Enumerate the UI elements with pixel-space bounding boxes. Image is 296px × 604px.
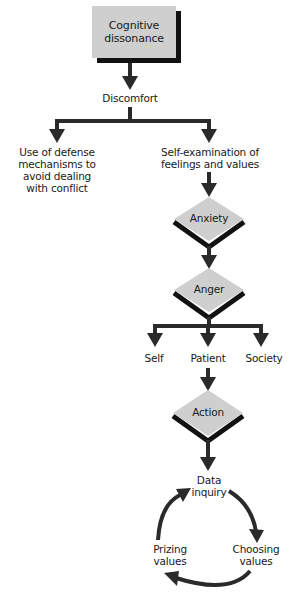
cycle-arrows [158, 488, 264, 586]
arrow-to-anger [201, 246, 217, 269]
defense-line-1: Use of defense [18, 146, 96, 158]
self-examination-label: Self-examination of feelings and values [161, 146, 259, 170]
cognitive-dissonance-label: Cognitive dissonance [104, 19, 164, 45]
data-inquiry-label: Data inquiry [192, 474, 227, 498]
defense-line-2: mechanisms to [18, 158, 96, 170]
arrow-to-data-inquiry [200, 440, 216, 471]
target-patient-label: Patient [190, 352, 225, 364]
defense-line-3: avoid dealing [18, 170, 96, 182]
arrow-to-anxiety [201, 172, 217, 197]
prizing-values-line-2: values [153, 555, 187, 567]
anger-split-connector [147, 317, 269, 347]
target-self-label: Self [145, 352, 164, 364]
choosing-values-line-2: values [233, 555, 280, 567]
data-inquiry-line-1: Data [192, 474, 227, 486]
prizing-values-line-1: Prizing [153, 543, 187, 555]
prizing-values-label: Prizing values [153, 543, 187, 567]
arrow-to-action [200, 368, 216, 391]
choosing-values-line-1: Choosing [233, 543, 280, 555]
cognitive-dissonance-line-2: dissonance [104, 32, 164, 45]
data-inquiry-line-2: inquiry [192, 486, 227, 498]
discomfort-split-connector [49, 107, 217, 143]
flowchart-canvas [0, 0, 296, 604]
anger-label: Anger [194, 283, 224, 295]
self-examination-line-1: Self-examination of [161, 146, 259, 158]
arrow-to-discomfort [122, 63, 138, 90]
defense-line-4: with conflict [18, 182, 96, 194]
choosing-values-label: Choosing values [233, 543, 280, 567]
target-society-label: Society [245, 352, 282, 364]
cognitive-dissonance-line-1: Cognitive [104, 19, 164, 32]
discomfort-label: Discomfort [102, 92, 157, 104]
self-examination-line-2: feelings and values [161, 158, 259, 170]
anxiety-label: Anxiety [190, 212, 228, 224]
action-label: Action [192, 406, 224, 418]
defense-mechanisms-label: Use of defense mechanisms to avoid deali… [18, 146, 96, 194]
